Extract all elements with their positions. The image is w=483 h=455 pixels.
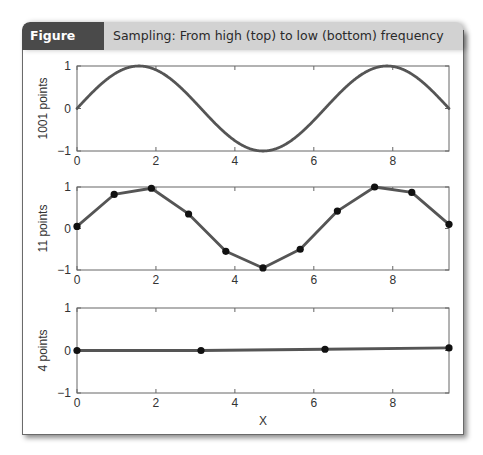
- x-axis-label: X: [259, 414, 267, 428]
- y-tick-label: 0: [64, 344, 71, 358]
- axes-box: [77, 187, 449, 270]
- data-point-marker: [148, 185, 155, 192]
- y-tick-label: 1: [64, 59, 71, 73]
- y-tick-label: −1: [57, 263, 71, 277]
- x-tick-label: 0: [74, 396, 81, 410]
- data-point-marker: [197, 347, 204, 354]
- subplot-1001-points: 02468−1011001 points: [36, 59, 449, 168]
- data-point-marker: [259, 264, 266, 271]
- data-line: [77, 187, 449, 268]
- y-tick-label: 0: [64, 102, 71, 116]
- data-point-marker: [185, 210, 192, 217]
- y-axis-label: 1001 points: [36, 77, 50, 139]
- data-point-marker: [297, 246, 304, 253]
- subplot-4-points: 02468−1014 pointsX: [36, 301, 453, 428]
- y-tick-label: 0: [64, 222, 71, 236]
- x-tick-label: 0: [74, 273, 81, 287]
- axes-box: [77, 66, 449, 151]
- data-point-marker: [445, 221, 452, 228]
- y-tick-label: −1: [57, 386, 71, 400]
- y-tick-label: −1: [57, 144, 71, 158]
- y-tick-label: 1: [64, 180, 71, 194]
- x-tick-label: 8: [389, 396, 396, 410]
- subplots-container: 02468−1011001 points 02468−10111 points …: [0, 0, 483, 455]
- x-tick-label: 4: [232, 273, 239, 287]
- x-tick-label: 6: [310, 396, 317, 410]
- x-tick-label: 6: [310, 273, 317, 287]
- data-point-marker: [445, 344, 452, 351]
- x-tick-label: 2: [153, 154, 160, 168]
- data-point-marker: [408, 189, 415, 196]
- data-point-marker: [222, 248, 229, 255]
- x-tick-label: 4: [232, 396, 239, 410]
- x-tick-label: 4: [232, 154, 239, 168]
- data-line: [77, 348, 449, 351]
- data-point-marker: [73, 347, 80, 354]
- data-point-marker: [73, 223, 80, 230]
- data-point-marker: [321, 346, 328, 353]
- x-tick-label: 0: [74, 154, 81, 168]
- subplot-11-points: 02468−10111 points: [36, 180, 453, 287]
- x-tick-label: 8: [389, 154, 396, 168]
- data-point-marker: [111, 191, 118, 198]
- x-tick-label: 2: [153, 396, 160, 410]
- y-axis-label: 11 points: [36, 205, 50, 253]
- x-tick-label: 6: [310, 154, 317, 168]
- x-tick-label: 2: [153, 273, 160, 287]
- data-point-marker: [371, 183, 378, 190]
- x-tick-label: 8: [389, 273, 396, 287]
- data-line: [77, 66, 449, 151]
- data-point-marker: [334, 207, 341, 214]
- y-tick-label: 1: [64, 301, 71, 315]
- y-axis-label: 4 points: [36, 329, 50, 371]
